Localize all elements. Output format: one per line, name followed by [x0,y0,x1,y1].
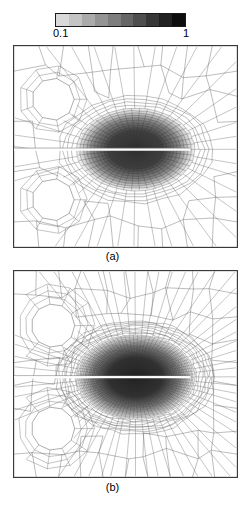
colorbar-swatch-9 [172,14,185,26]
panel-a-mesh [14,46,237,247]
crack-line [14,376,190,377]
colorbar-group: 0.1 1 [0,0,252,42]
crack-line [14,148,190,149]
colorbar-swatch-8 [159,14,172,26]
colorbar-swatch-2 [82,14,95,26]
colorbar-tick-labels: 0.1 1 [55,27,186,41]
colorbar-min-label: 0.1 [53,27,68,40]
colorbar-swatch-7 [146,14,159,26]
mesh-figure: 0.1 1 (a) (b) [0,0,252,514]
panel-a-caption: (a) [0,250,225,263]
panel-a [13,45,238,248]
colorbar-swatch-6 [133,14,146,26]
panel-b-caption: (b) [0,481,225,494]
panel-b [13,270,238,478]
hole-fill-0 [32,78,74,120]
panel-b-mesh [14,271,237,477]
panel-a-frame [13,45,238,248]
colorbar-swatch-0 [56,14,69,26]
colorbar-swatch-5 [121,14,134,26]
panel-b-frame [13,270,238,478]
colorbar-swatch-1 [69,14,82,26]
colorbar-swatch-4 [108,14,121,26]
hole-fill-1 [32,179,74,221]
colorbar-swatch-3 [95,14,108,26]
colorbar-max-label: 1 [183,27,189,40]
grayscale-colorbar [55,13,186,27]
